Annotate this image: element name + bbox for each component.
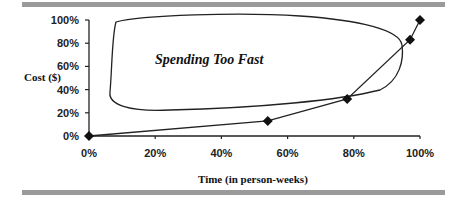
diamond-marker xyxy=(415,15,425,25)
y-tick-label: 20% xyxy=(57,107,79,119)
annotation-label: Spending Too Fast xyxy=(155,52,265,67)
y-tick-label: 100% xyxy=(51,14,79,26)
diamond-marker xyxy=(84,131,94,141)
cost-series xyxy=(84,15,425,141)
x-axis-label: Time (in person-weeks) xyxy=(198,173,308,186)
y-axis-label: Cost ($) xyxy=(24,71,61,84)
x-tick-label: 80% xyxy=(343,147,365,159)
x-tick-label: 40% xyxy=(210,147,232,159)
axes: 0%20%40%60%80%100%0%20%40%60%80%100% xyxy=(51,14,434,159)
cost-vs-time-chart: 0%20%40%60%80%100%0%20%40%60%80%100% Spe… xyxy=(0,0,460,207)
x-tick-label: 0% xyxy=(81,147,97,159)
x-tick-label: 100% xyxy=(406,147,434,159)
spending-too-fast-region: Spending Too Fast xyxy=(110,14,403,110)
y-tick-label: 0% xyxy=(63,130,79,142)
y-tick-label: 40% xyxy=(57,84,79,96)
x-tick-label: 60% xyxy=(277,147,299,159)
y-tick-label: 80% xyxy=(57,37,79,49)
x-tick-label: 20% xyxy=(144,147,166,159)
diamond-marker xyxy=(263,116,273,126)
